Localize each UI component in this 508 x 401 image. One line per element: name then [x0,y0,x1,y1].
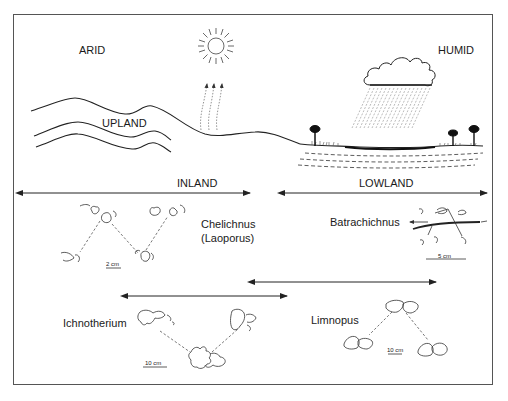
footprint-icon [150,205,185,216]
footprint-icon [386,300,418,313]
chelichnus-alt-label: (Laoporus) [201,232,254,245]
footprint-icon [135,250,153,261]
footprint-icon [138,310,174,325]
ichnotherium-label: Ichnotherium [63,317,127,330]
evaporation-arrows-icon [201,84,222,130]
humid-label: HUMID [438,44,474,57]
ichnotherium-scale-label: 10 cm [145,360,161,367]
chelichnus-trackway [61,205,185,263]
diagram-art [0,0,508,401]
tree-icon [449,130,458,146]
footprint-icon [418,343,447,356]
footprint-icon [344,336,373,349]
footprint-icon [61,252,79,262]
upland-hills [31,98,300,152]
limnopus-label: Limnopus [311,314,359,327]
footprint-icon [80,205,116,223]
batrachichnus-trackway [410,208,487,245]
footprint-icon [189,347,225,369]
tree-icon [310,126,320,147]
tree-icon [469,126,479,147]
upland-label: UPLAND [102,117,147,130]
lowland-label: LOWLAND [359,177,413,190]
sun-icon [198,28,234,64]
chelichnus-scale-label: 2 cm [106,261,119,268]
limnopus-scale-label: 10 cm [387,347,403,354]
chelichnus-label: Chelichnus [201,218,255,231]
inland-label: INLAND [177,177,217,190]
batrachichnus-label: Batrachichnus [330,216,400,229]
rain-cloud-icon [352,58,435,128]
lowland-ground [298,141,483,168]
footprint-icon [231,309,257,331]
batrachichnus-scale-label: 5 cm [438,253,451,260]
arid-label: ARID [79,44,105,57]
